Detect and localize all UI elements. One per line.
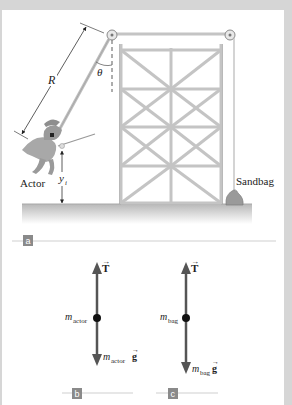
sandbag-label: Sandbag [236,175,274,187]
weight-label-b: m [103,351,110,362]
panel-a: θ R Actor y i Sandbag a [12,23,276,246]
weight-label-c: m [192,363,199,374]
weight-subscript-c: bag [200,369,211,377]
mass-label-b: m [65,311,72,322]
actor-label: Actor [20,177,45,189]
scaffold-tower [112,34,232,204]
sandbag [226,190,243,205]
panel-c: T → m bag m bag g → c [156,257,219,399]
svg-text:→: → [132,346,139,354]
panel-b: T → m actor m actor g → b [62,257,139,399]
angle-label: θ [97,66,103,78]
panel-a-tag-label: a [26,236,31,246]
bag-point-mass [182,314,190,322]
ground [22,204,252,224]
mass-label-c: m [160,311,167,322]
physics-figure: θ R Actor y i Sandbag a [0,0,292,405]
actor-point-mass [93,314,101,322]
panel-c-tag-label: c [171,389,176,399]
weight-subscript-b: actor [111,357,126,365]
svg-text:→: → [102,257,110,266]
panel-b-tag-label: b [75,389,80,399]
svg-text:→: → [191,257,199,266]
mass-subscript-c: bag [168,317,179,325]
rope-length-label: R [47,73,56,87]
actor-figure [22,119,95,175]
height-label: y [58,172,64,184]
height-subscript: i [65,179,67,187]
svg-text:→: → [212,358,219,366]
mass-subscript-b: actor [73,317,88,325]
